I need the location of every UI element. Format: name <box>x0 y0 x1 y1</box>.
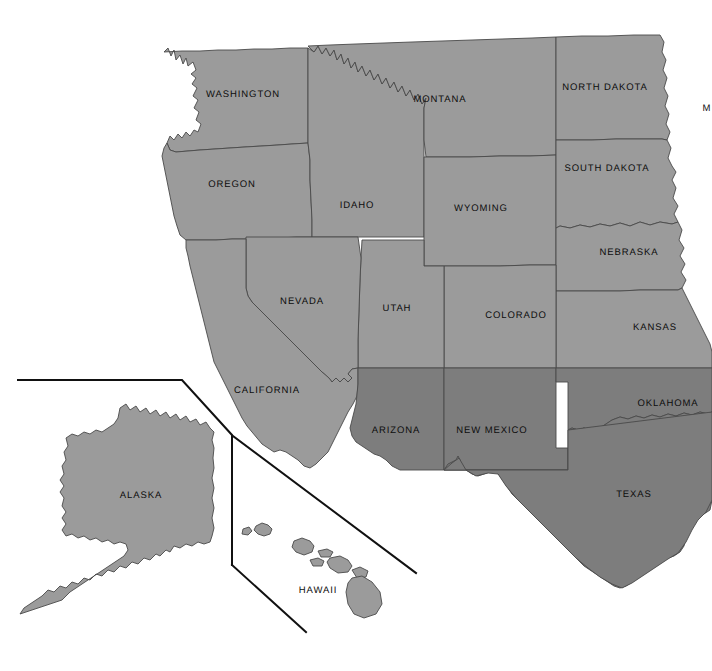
dark-gray-state-group <box>350 368 712 588</box>
state-kansas[interactable] <box>556 288 712 368</box>
state-oregon[interactable] <box>162 143 312 240</box>
state-hawaii[interactable] <box>242 523 382 618</box>
state-wyoming[interactable] <box>424 155 556 266</box>
state-arizona[interactable] <box>350 368 444 470</box>
state-nebraska[interactable] <box>556 222 686 291</box>
state-south-dakota[interactable] <box>556 139 678 228</box>
state-colorado[interactable] <box>444 265 556 368</box>
map-canvas <box>0 0 712 671</box>
hawaii-inset-divider-lower <box>232 565 306 632</box>
us-map: WASHINGTON OREGON IDAHO MONTANA WYOMING … <box>0 0 712 671</box>
state-washington[interactable] <box>164 48 308 152</box>
state-alaska[interactable] <box>20 404 214 614</box>
state-north-dakota[interactable] <box>556 35 670 140</box>
state-new-mexico[interactable] <box>444 368 568 470</box>
